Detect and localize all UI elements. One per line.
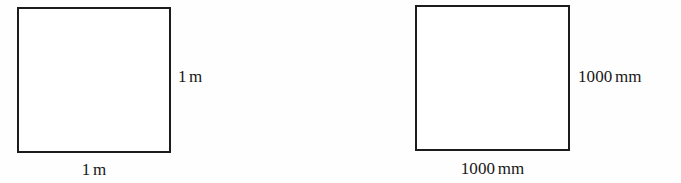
meter-bottom-side-label: 1m (17, 161, 171, 178)
millimeter-right-side-label: 1000mm (578, 68, 642, 85)
square-millimeter-outline (415, 5, 570, 151)
meter-right-side-label: 1m (178, 68, 202, 85)
unit-comparison-figure: 1m 1m 1000mm 1000mm (0, 0, 681, 183)
millimeter-bottom-side-label: 1000mm (415, 160, 570, 177)
square-meter-outline (17, 7, 171, 153)
